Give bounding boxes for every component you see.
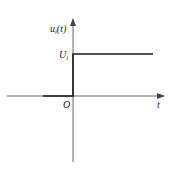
level-label: Ui [59, 49, 68, 61]
step-diagram: ui(t) Ui O t [0, 0, 177, 171]
step-signal [43, 54, 153, 96]
origin-label: O [63, 99, 70, 110]
x-axis-label: t [157, 99, 160, 110]
y-axis-label: ui(t) [50, 23, 67, 35]
